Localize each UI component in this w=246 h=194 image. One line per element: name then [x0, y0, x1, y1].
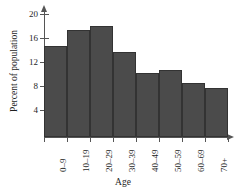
x-axis-title: Age — [0, 177, 246, 187]
y-tick-mark — [40, 38, 49, 39]
bar — [44, 46, 67, 137]
x-tick-label: 0–9 — [59, 159, 68, 173]
x-tick-label: 40–49 — [151, 150, 160, 173]
bar-chart: Percent of population 20 16 12 8 4 — [0, 0, 246, 194]
x-tick-mark — [159, 137, 160, 142]
y-tick-label: 12 — [29, 58, 38, 67]
x-tick-mark — [67, 137, 68, 142]
y-tick-label: 20 — [29, 10, 38, 19]
y-axis-arrow-icon — [41, 5, 47, 12]
bar — [159, 70, 182, 137]
bar — [136, 73, 159, 137]
x-tick-label: 60–69 — [197, 150, 206, 173]
x-tick-mark — [205, 137, 206, 142]
x-tick-mark — [113, 137, 114, 142]
y-tick-label: 16 — [29, 34, 38, 43]
bar — [67, 30, 90, 137]
x-tick-label: 20–29 — [105, 150, 114, 173]
bar — [90, 26, 113, 137]
y-tick-label: 8 — [34, 82, 39, 91]
x-tick-mark — [90, 137, 91, 142]
y-tick-label: 4 — [34, 106, 39, 115]
bar — [205, 88, 228, 137]
bar — [113, 52, 136, 137]
y-tick-mark — [40, 14, 49, 15]
y-axis-title: Percent of population — [9, 5, 19, 137]
bar — [182, 83, 205, 137]
x-tick-label: 70+ — [220, 158, 229, 172]
x-tick-mark — [182, 137, 183, 142]
x-tick-mark — [44, 137, 45, 142]
x-tick-label: 30–39 — [128, 150, 137, 173]
x-tick-label: 10–19 — [82, 150, 91, 173]
x-tick-label: 50–59 — [174, 150, 183, 173]
x-tick-mark — [228, 137, 229, 142]
x-tick-mark — [136, 137, 137, 142]
